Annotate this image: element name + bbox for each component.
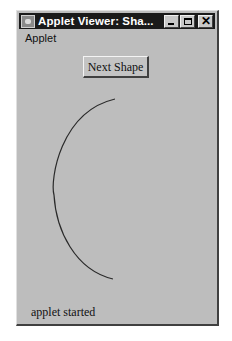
- applet-drawing-canvas: [0, 0, 232, 341]
- arc-shape: [53, 99, 115, 279]
